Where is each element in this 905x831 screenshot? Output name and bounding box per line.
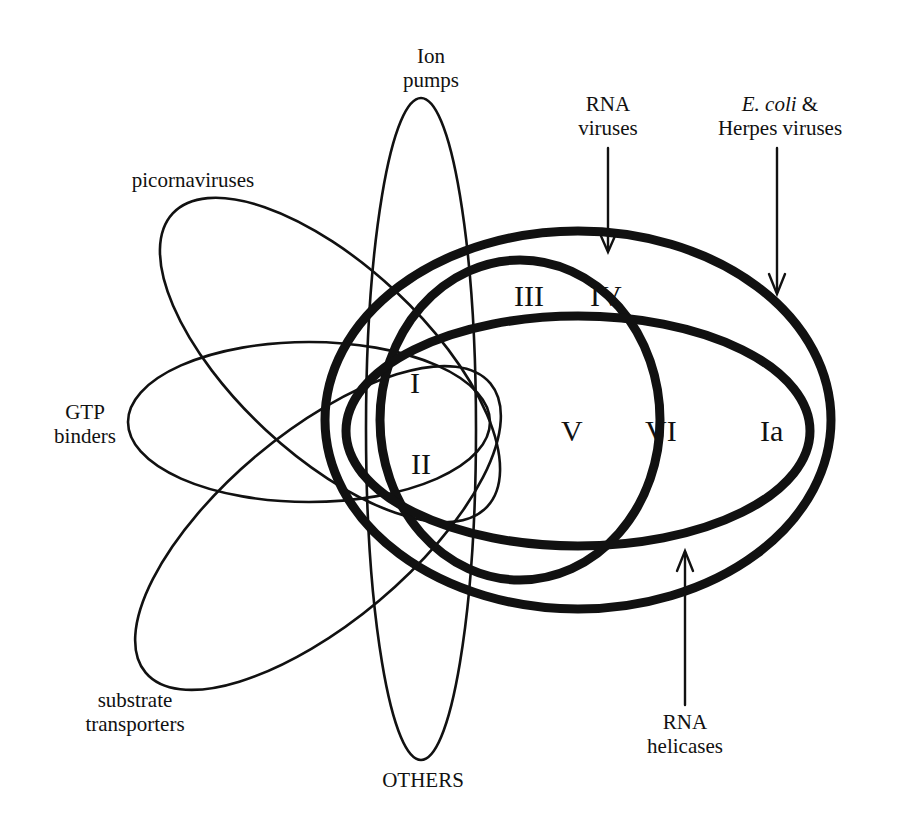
ecoli-herpes-arrow [769, 148, 785, 294]
substrate-transporters-label-line2: transporters [60, 712, 210, 736]
rna-helicases-arrow [677, 551, 693, 705]
picornaviruses-label: picornaviruses [113, 168, 273, 192]
others-label: OTHERS [368, 768, 478, 792]
ion-pumps-label-line2: pumps [391, 68, 471, 92]
motif-IV-label: IV [590, 280, 622, 312]
gtp-binders-label: GTP binders [40, 400, 130, 448]
motif-Ia-label: Ia [760, 415, 783, 447]
picornaviruses-label-line1: picornaviruses [113, 168, 273, 192]
ecoli-italic-label: E. coli [742, 92, 797, 116]
motif-II-label: II [411, 448, 431, 480]
substrate-transporters-label-line1: substrate [60, 688, 210, 712]
ampersand-label: & [797, 92, 819, 116]
motif-III-label: III [514, 280, 544, 312]
rna-viruses-label-line1: RNA [563, 92, 653, 116]
substrate-transporters-label: substrate transporters [60, 688, 210, 736]
rna-viruses-label-line2: viruses [563, 116, 653, 140]
rna-helicases-label-line1: RNA [630, 710, 740, 734]
others-label-line1: OTHERS [368, 768, 478, 792]
ecoli-herpes-label: E. coli & Herpes viruses [690, 92, 870, 140]
rna-helicases-label-line2: helicases [630, 734, 740, 758]
ecoli-herpes-label-line2: Herpes viruses [690, 116, 870, 140]
gtp-binders-label-line2: binders [40, 424, 130, 448]
motif-V-label: V [561, 415, 583, 447]
rna-helicases-label: RNA helicases [630, 710, 740, 758]
ion-pumps-label-line1: Ion [391, 44, 471, 68]
motif-I-label: I [410, 367, 420, 399]
picornaviruses-ellipse [108, 144, 552, 576]
ion-pumps-label: Ion pumps [391, 44, 471, 92]
rna-viruses-label: RNA viruses [563, 92, 653, 140]
substrate-transporters-ellipse [85, 311, 552, 746]
motif-VI-label: VI [645, 415, 677, 447]
gtp-binders-label-line1: GTP [40, 400, 130, 424]
ecoli-herpes-label-line1: E. coli & [690, 92, 870, 116]
